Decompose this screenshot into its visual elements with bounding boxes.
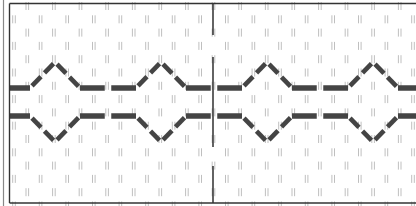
stitch-pattern-chart xyxy=(0,0,416,206)
